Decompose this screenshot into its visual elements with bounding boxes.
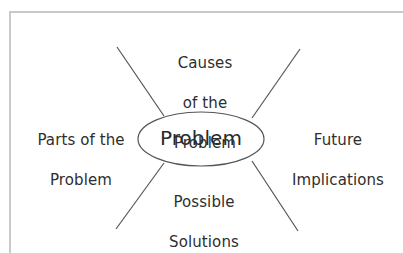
branch-right-future: Future Implications <box>276 110 400 210</box>
branch-top-line-3: Problem <box>160 133 250 153</box>
branch-top-line-1: Causes <box>160 53 250 73</box>
branch-bottom-line-1: Possible <box>158 192 250 212</box>
branch-bottom-solutions: Possible Solutions <box>158 172 250 253</box>
branch-right-line-2: Implications <box>276 170 400 190</box>
branch-left-parts: Parts of the Problem <box>22 110 140 210</box>
branch-top-line-2: of the <box>160 93 250 113</box>
branch-left-line-1: Parts of the <box>22 130 140 150</box>
connector-upper-right <box>252 49 300 118</box>
connector-upper-left <box>117 47 164 116</box>
branch-left-line-2: Problem <box>22 170 140 190</box>
branch-bottom-line-2: Solutions <box>158 232 250 252</box>
branch-right-line-1: Future <box>276 130 400 150</box>
branch-top-causes: Causes of the Problem <box>160 33 250 173</box>
